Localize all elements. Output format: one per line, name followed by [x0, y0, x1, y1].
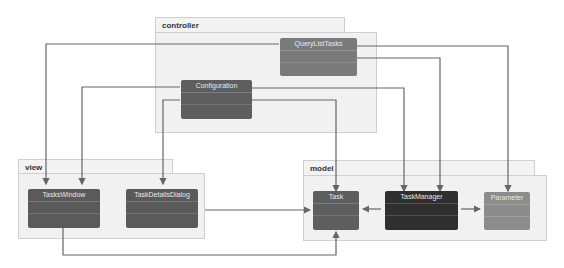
methods-section — [28, 214, 100, 225]
methods-section — [126, 214, 198, 225]
attributes-section — [126, 202, 198, 214]
attributes-section — [280, 51, 357, 63]
class-task[interactable]: Task — [313, 191, 359, 230]
attributes-section — [484, 205, 530, 217]
attributes-section — [181, 93, 252, 105]
attributes-section — [313, 204, 359, 216]
class-parameter[interactable]: Parameter — [484, 192, 530, 230]
class-tasks-window[interactable]: TasksWindow — [28, 189, 100, 228]
methods-section — [385, 216, 458, 227]
methods-section — [280, 63, 357, 74]
methods-section — [313, 216, 359, 227]
class-title: Task — [313, 191, 359, 204]
attributes-section — [28, 202, 100, 214]
class-title: QueryListTasks — [280, 38, 357, 51]
methods-section — [181, 105, 252, 116]
class-configuration[interactable]: Configuration — [181, 80, 252, 119]
class-title: TasksWindow — [28, 189, 100, 202]
class-query-list-tasks[interactable]: QueryListTasks — [280, 38, 357, 76]
class-title: Configuration — [181, 80, 252, 93]
class-title: Parameter — [484, 192, 530, 205]
attributes-section — [385, 204, 458, 216]
class-title: TaskDetailsDialog — [126, 189, 198, 202]
class-task-details-dialog[interactable]: TaskDetailsDialog — [126, 189, 198, 228]
methods-section — [484, 217, 530, 228]
class-title: TaskManager — [385, 191, 458, 204]
class-task-manager[interactable]: TaskManager — [385, 191, 458, 230]
